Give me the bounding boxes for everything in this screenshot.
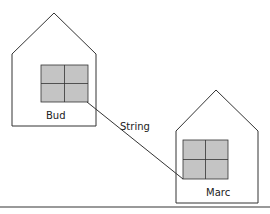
- connector-label: String: [120, 121, 150, 132]
- diagram-canvas: [0, 0, 270, 214]
- window-marc: [183, 140, 228, 179]
- string-connector: [87, 102, 183, 179]
- window-bud: [41, 65, 88, 102]
- house-label-marc: Marc: [206, 187, 230, 198]
- house-label-bud: Bud: [46, 110, 66, 121]
